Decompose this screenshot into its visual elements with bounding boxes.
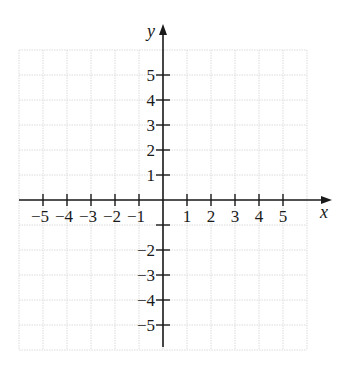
x-tick-label: −4 xyxy=(55,207,74,226)
y-tick-label: −5 xyxy=(137,316,155,335)
y-tick-label: 4 xyxy=(147,91,156,110)
y-tick-label: −4 xyxy=(137,291,156,310)
y-tick-label: 1 xyxy=(147,166,156,185)
y-tick-label: 5 xyxy=(147,66,156,85)
x-tick-label: 2 xyxy=(207,207,216,226)
y-axis-label: y xyxy=(145,21,155,41)
x-tick-label: −1 xyxy=(127,207,145,226)
y-tick-label: 2 xyxy=(147,141,156,160)
x-tick-label: 1 xyxy=(183,207,192,226)
x-tick-label: −2 xyxy=(103,207,121,226)
y-axis-arrow-icon xyxy=(159,24,167,35)
axes: x y xyxy=(19,21,332,347)
x-tick-label: 4 xyxy=(255,207,264,226)
y-tick-label: 3 xyxy=(147,116,156,135)
x-axis-label: x xyxy=(319,202,328,222)
x-tick-label: −3 xyxy=(79,207,97,226)
x-tick-label: −5 xyxy=(31,207,49,226)
y-tick-label: −3 xyxy=(137,266,155,285)
coordinate-plane: x y −5−4−3−2−11234554321−2−3−4−5 xyxy=(0,0,351,366)
x-tick-label: 3 xyxy=(231,207,240,226)
y-tick-label: −2 xyxy=(137,241,155,260)
x-tick-label: 5 xyxy=(279,207,288,226)
